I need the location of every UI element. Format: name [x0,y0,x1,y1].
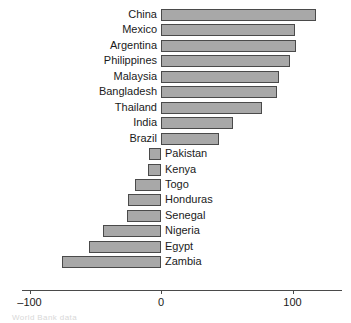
bar-row[interactable]: Bangladesh [0,85,351,100]
x-axis-tick [161,290,162,294]
bar[interactable] [161,117,233,129]
x-axis-tick-label: 0 [158,296,164,308]
bar-category-label: Bangladesh [0,84,157,99]
x-axis-tick-label: 100 [283,296,301,308]
bar-category-label: India [0,115,157,130]
bar[interactable] [89,241,161,253]
bar[interactable] [103,225,161,237]
bar-row[interactable]: Honduras [0,193,351,208]
x-axis-tick-label: –100 [17,296,41,308]
bar[interactable] [161,9,316,21]
bar[interactable] [161,40,296,52]
bar[interactable] [127,210,161,222]
bar[interactable] [149,148,161,160]
bar[interactable] [161,55,290,67]
bar[interactable] [161,71,279,83]
chart-footnote: World Bank data [12,313,77,322]
bar-category-label: Honduras [165,192,351,207]
bar-category-label: Nigeria [165,223,351,238]
bar-category-label: Togo [165,177,351,192]
bar-category-label: Egypt [165,239,351,254]
bar[interactable] [161,102,262,114]
x-axis-tick [293,290,294,294]
bar-row[interactable]: Kenya [0,163,351,178]
bar-row[interactable]: India [0,116,351,131]
bar-row[interactable]: Philippines [0,54,351,69]
bar-category-label: Malaysia [0,69,157,84]
bar-row[interactable]: Egypt [0,240,351,255]
bar-row[interactable]: Nigeria [0,224,351,239]
bar-row[interactable]: Malaysia [0,70,351,85]
bar-row[interactable]: Brazil [0,132,351,147]
bar-chart: ChinaMexicoArgentinaPhilippinesMalaysiaB… [0,0,351,323]
bar-row[interactable]: Togo [0,178,351,193]
bar[interactable] [62,256,161,268]
x-axis-line [22,290,342,291]
bar-row[interactable]: Argentina [0,39,351,54]
bar-row[interactable]: China [0,8,351,23]
x-axis-tick [30,290,31,294]
bar-row[interactable]: Mexico [0,23,351,38]
bar-category-label: Brazil [0,131,157,146]
bar[interactable] [128,194,161,206]
plot-area: ChinaMexicoArgentinaPhilippinesMalaysiaB… [0,0,351,290]
bar[interactable] [135,179,161,191]
bar-category-label: China [0,7,157,22]
bar-category-label: Thailand [0,100,157,115]
bar-category-label: Zambia [165,254,351,269]
bar-row[interactable]: Zambia [0,255,351,270]
bar[interactable] [148,164,161,176]
bar[interactable] [161,24,295,36]
bar-category-label: Pakistan [165,146,351,161]
bar[interactable] [161,86,277,98]
bar-row[interactable]: Pakistan [0,147,351,162]
bar-row[interactable]: Thailand [0,101,351,116]
bar-category-label: Kenya [165,162,351,177]
bar-row[interactable]: Senegal [0,209,351,224]
bar-category-label: Mexico [0,22,157,37]
bar[interactable] [161,133,219,145]
bar-category-label: Argentina [0,38,157,53]
bar-category-label: Philippines [0,53,157,68]
bar-category-label: Senegal [165,208,351,223]
